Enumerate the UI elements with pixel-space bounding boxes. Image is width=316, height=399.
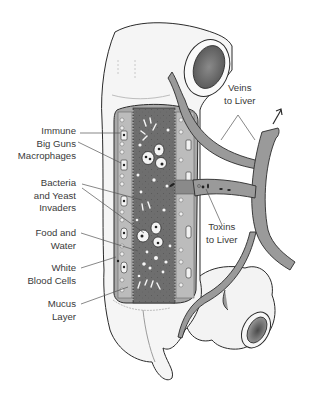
cross-section-panel (114, 104, 198, 303)
label-veins-to-liver: Veins to Liver (224, 82, 255, 107)
label-immune-macrophages: Immune Big Guns Macrophages (18, 125, 76, 163)
label-food-water: Food and Water (35, 227, 76, 252)
arrow-up-right-icon (273, 109, 282, 124)
label-white-blood-cells: White Blood Cells (27, 262, 76, 287)
label-bacteria-yeast: Bacteria and Yeast Invaders (34, 177, 76, 215)
label-toxins-to-liver: Toxins to Liver (206, 221, 237, 246)
label-mucus-layer: Mucus Layer (48, 298, 76, 323)
